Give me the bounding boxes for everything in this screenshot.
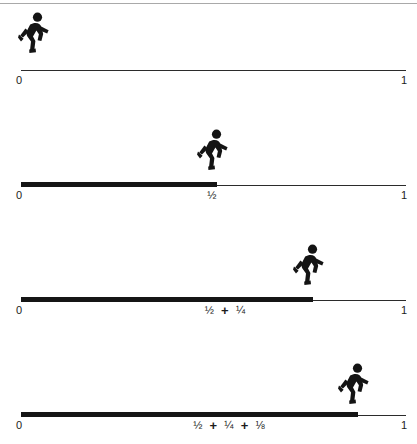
tick-label-one: 1 — [401, 304, 407, 316]
plus-operator: + — [214, 305, 236, 317]
term-half: ½ — [193, 419, 202, 431]
number-line-row-2: 0 ½ 1 — [0, 115, 417, 225]
term-eighth: ⅛ — [255, 419, 264, 431]
tick-label-one: 1 — [401, 189, 407, 201]
progress-bar — [21, 297, 313, 302]
term-quarter: ¼ — [224, 419, 233, 431]
progress-bar — [21, 412, 358, 417]
sum-expression: ½+¼ — [205, 304, 246, 317]
tick-label-zero: 0 — [16, 74, 22, 86]
runner-icon — [293, 244, 327, 286]
tick-label-half: ½ — [207, 189, 216, 201]
geometric-series-diagram: 0 1 0 ½ 1 — [0, 0, 417, 444]
sum-expression: ½+¼+⅛ — [193, 419, 265, 432]
runner-icon — [197, 129, 231, 171]
axis-line — [21, 70, 406, 71]
progress-bar — [21, 182, 217, 187]
number-line-row-4: 0 ½+¼+⅛ 1 — [0, 345, 417, 444]
plus-operator: + — [234, 420, 256, 432]
runner-icon — [338, 363, 372, 405]
tick-label-one: 1 — [401, 419, 407, 431]
tick-label-one: 1 — [401, 74, 407, 86]
tick-label-zero: 0 — [16, 419, 22, 431]
plus-operator: + — [203, 420, 225, 432]
number-line-row-3: 0 ½+¼ 1 — [0, 230, 417, 340]
tick-label-zero: 0 — [16, 189, 22, 201]
term-quarter: ¼ — [236, 304, 245, 316]
number-line-row-1: 0 1 — [0, 0, 417, 110]
runner-icon — [18, 12, 52, 54]
tick-label-zero: 0 — [16, 304, 22, 316]
term-half: ½ — [205, 304, 214, 316]
